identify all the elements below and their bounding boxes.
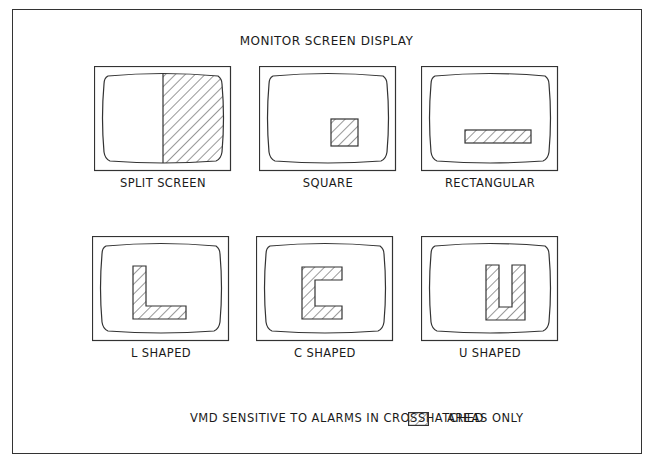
monitor-label: L SHAPED bbox=[71, 346, 251, 360]
monitor-label: SPLIT SCREEN bbox=[73, 176, 253, 190]
monitor-rectangular bbox=[421, 66, 559, 172]
monitor-square bbox=[259, 66, 397, 172]
monitor-label: C SHAPED bbox=[235, 346, 415, 360]
monitor-label: RECTANGULAR bbox=[400, 176, 580, 190]
legend-text-suffix: AREAS ONLY bbox=[447, 411, 524, 425]
monitor-l-shaped bbox=[92, 236, 230, 342]
monitor-label: U SHAPED bbox=[400, 346, 580, 360]
monitor-u-shaped bbox=[421, 236, 559, 342]
monitor-c-shaped bbox=[256, 236, 394, 342]
diagram-title: MONITOR SCREEN DISPLAY bbox=[0, 34, 653, 48]
legend-text: VMD SENSITIVE TO ALARMS IN CROSSHATCHED bbox=[190, 411, 484, 425]
crosshatch-swatch-icon bbox=[408, 412, 429, 429]
monitor-label: SQUARE bbox=[238, 176, 418, 190]
monitor-split-screen bbox=[94, 66, 232, 172]
